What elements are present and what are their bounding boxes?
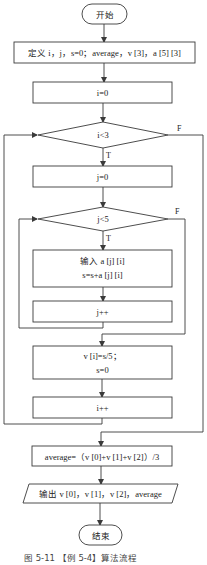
end-terminator: 结束: [79, 525, 122, 545]
start-terminator: 开始: [82, 4, 127, 24]
cond-i-false-label: F: [177, 124, 182, 133]
input-line2: s=s+a [j] [i]: [82, 270, 122, 280]
cond-j-diamond: j<5: [38, 207, 168, 231]
input-line1: 输入 a [j] [i]: [80, 256, 124, 266]
cond-i-label: i<3: [97, 130, 108, 140]
inc-j-label: j++: [96, 307, 109, 317]
figure-caption: 图 5-11 【例 5-4】算法流程: [24, 553, 137, 563]
inc-i-box: i++: [33, 397, 172, 418]
avg-v-line2: s=0: [96, 365, 108, 375]
avg-v-box: v [i]=s/5； s=0: [33, 346, 172, 379]
inc-j-box: j++: [33, 301, 172, 322]
init-i-box: i=0: [33, 82, 172, 103]
inc-i-label: i++: [97, 403, 109, 413]
start-label: 开始: [96, 10, 114, 20]
avg-v-line1: v [i]=s/5；: [83, 351, 121, 361]
average-label: average=（v [0]+v [1]+v [2]）/3: [45, 452, 159, 462]
init-j-box: j=0: [33, 166, 172, 187]
init-i-label: i=0: [97, 88, 108, 98]
init-j-label: j=0: [96, 172, 108, 182]
cond-i-diamond: i<3: [38, 122, 168, 148]
cond-j-label: j<5: [96, 214, 108, 224]
define-box: 定义 i，j，s=0；average，v [3]，a [5] [3]: [14, 42, 195, 63]
end-label: 结束: [92, 531, 110, 541]
input-box: 输入 a [j] [i] s=s+a [j] [i]: [33, 250, 172, 287]
cond-j-false-label: F: [175, 207, 180, 216]
define-label: 定义 i，j，s=0；average，v [3]，a [5] [3]: [28, 48, 181, 58]
cond-i-true-label: T: [106, 151, 111, 160]
output-parallelogram: 输出 v [0]，v [1]，v [2]，average: [23, 484, 178, 503]
flowchart-canvas: 开始 定义 i，j，s=0；average，v [3]，a [5] [3] i=…: [0, 0, 207, 565]
cond-j-true-label: T: [106, 234, 111, 243]
average-box: average=（v [0]+v [1]+v [2]）/3: [32, 446, 172, 466]
output-label: 输出 v [0]，v [1]，v [2]，average: [39, 489, 162, 499]
